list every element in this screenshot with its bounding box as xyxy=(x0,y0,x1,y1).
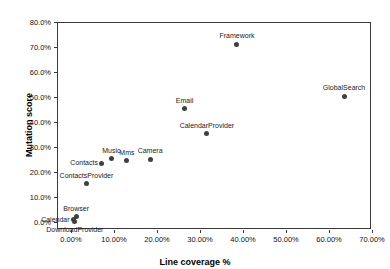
data-point-label: Calendar xyxy=(41,216,69,224)
x-axis-tick-label: 0.00% xyxy=(60,235,81,244)
y-axis-tick-label: 80.0% xyxy=(30,18,51,27)
y-axis-tick-label: 30.0% xyxy=(30,143,51,152)
data-point xyxy=(84,181,89,186)
x-axis-tick-label: 60.00% xyxy=(316,235,341,244)
data-point-label: Browser xyxy=(63,205,89,213)
x-axis-title: Line coverage % xyxy=(0,257,390,267)
data-point-label: CalendarProvider xyxy=(180,122,234,130)
data-point-label: GlobalSearch xyxy=(323,84,365,92)
data-point xyxy=(109,156,114,161)
data-point-label: Music xyxy=(102,147,120,155)
scatter-chart: Mutation score Line coverage % 0.0%10.0%… xyxy=(0,0,390,269)
x-axis-tick-mark xyxy=(286,230,287,233)
y-axis-tick-label: 40.0% xyxy=(30,118,51,127)
data-point-label: DownloadProvider xyxy=(46,226,103,234)
x-axis-tick-label: 50.00% xyxy=(273,235,298,244)
data-point-label: Contacts xyxy=(70,159,98,167)
data-point xyxy=(342,94,347,99)
data-point-label: ContactsProvider xyxy=(60,172,114,180)
x-axis-tick-mark xyxy=(329,230,330,233)
data-point xyxy=(182,106,187,111)
data-point-label: Framework xyxy=(219,32,254,40)
x-axis-tick-mark xyxy=(243,230,244,233)
y-axis-tick-label: 50.0% xyxy=(30,93,51,102)
x-axis-tick-mark xyxy=(114,230,115,233)
x-axis-tick-label: 30.00% xyxy=(187,235,212,244)
y-axis-tick-label: 20.0% xyxy=(30,168,51,177)
x-axis-tick-mark xyxy=(157,230,158,233)
y-axis-tick-mark xyxy=(54,97,57,98)
y-axis-tick-mark xyxy=(54,197,57,198)
data-point-label: Email xyxy=(176,97,194,105)
data-point-label: Camera xyxy=(138,147,163,155)
x-axis-tick-mark xyxy=(200,230,201,233)
y-axis-tick-label: 10.0% xyxy=(30,193,51,202)
y-axis-tick-mark xyxy=(54,22,57,23)
y-axis-tick-mark xyxy=(54,122,57,123)
y-axis-tick-label: 70.0% xyxy=(30,43,51,52)
y-axis-tick-mark xyxy=(54,147,57,148)
x-axis-tick-mark xyxy=(372,230,373,233)
data-point xyxy=(148,157,153,162)
y-axis-tick-mark xyxy=(54,72,57,73)
y-axis-tick-label: 60.0% xyxy=(30,68,51,77)
x-axis-tick-label: 20.00% xyxy=(144,235,169,244)
x-axis-tick-label: 70.00% xyxy=(359,235,384,244)
x-axis-tick-label: 10.00% xyxy=(101,235,126,244)
y-axis-tick-mark xyxy=(54,172,57,173)
y-axis-tick-mark xyxy=(54,47,57,48)
x-axis-tick-label: 40.00% xyxy=(230,235,255,244)
data-point-label: Mms xyxy=(119,149,134,157)
